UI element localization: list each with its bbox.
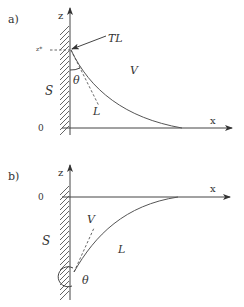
origin-label-a: 0 (38, 123, 44, 133)
hatch-stroke (60, 186, 69, 195)
hatch-stroke (60, 111, 69, 120)
hatch-stroke (60, 66, 69, 75)
hatch-stroke (60, 96, 69, 105)
hatch-stroke (60, 56, 69, 65)
hatch-stroke (60, 216, 69, 225)
origin-label-b: 0 (38, 192, 44, 202)
hatch-stroke (60, 236, 69, 245)
hatch-stroke (60, 41, 69, 50)
hatch-stroke (60, 241, 69, 250)
panel-b: b) z x 0 θ V L S (8, 165, 230, 300)
hatch-stroke (60, 281, 69, 290)
hatch-stroke (60, 256, 69, 265)
hatch-stroke (60, 231, 69, 240)
diagram: a) z x 0 z* TL θ V L S b) z (0, 0, 244, 307)
hatch-stroke (60, 201, 69, 210)
contact-angle-arc-a (70, 68, 80, 70)
hatch-stroke (60, 76, 69, 85)
hatch-stroke (60, 226, 69, 235)
hatch-stroke (60, 206, 69, 215)
hatch-stroke (60, 211, 69, 220)
x-axis-label-a: x (210, 115, 216, 126)
hatch-stroke (60, 26, 69, 35)
theta-label-a: θ (73, 74, 80, 87)
tl-arrow (72, 36, 106, 49)
z-axis-label-b: z (58, 167, 63, 178)
hatch-stroke (60, 86, 69, 95)
hatch-stroke (60, 286, 69, 295)
hatch-stroke (60, 61, 69, 70)
panel-a: a) z x 0 z* TL θ V L S (8, 8, 232, 135)
liquid-label-b: L (117, 243, 125, 256)
hatch-stroke (60, 51, 69, 60)
wall-hatch-a (60, 26, 69, 135)
hatch-stroke (60, 36, 69, 45)
hatch-stroke (60, 251, 69, 260)
hatch-stroke (60, 291, 69, 300)
solid-label-b: S (42, 234, 50, 248)
vapor-label-a: V (130, 64, 139, 77)
hatch-stroke (60, 121, 69, 130)
interface-curve-b (74, 197, 178, 272)
hatch-stroke (60, 31, 69, 40)
hatch-stroke (60, 71, 69, 80)
hatch-stroke (60, 81, 69, 90)
hatch-stroke (60, 106, 69, 115)
solid-label-a: S (45, 84, 53, 98)
hatch-stroke (60, 261, 69, 270)
hatch-stroke (60, 191, 69, 200)
panel-a-label: a) (8, 13, 19, 26)
hatch-stroke (60, 116, 69, 125)
hatch-stroke (60, 91, 69, 100)
hatch-stroke (60, 46, 69, 55)
tl-label: TL (108, 32, 123, 45)
vapor-label-b: V (87, 213, 96, 226)
interface-curve-a (71, 50, 182, 128)
hatch-stroke (60, 101, 69, 110)
tangent-dashed-b (74, 228, 94, 272)
theta-label-b: θ (82, 274, 89, 287)
hatch-stroke (60, 221, 69, 230)
x-axis-label-b: x (210, 183, 216, 194)
wall-hatch-b (60, 186, 69, 300)
hatch-stroke (60, 246, 69, 255)
panel-b-label: b) (8, 170, 19, 183)
hatch-stroke (60, 126, 69, 135)
zstar-label: z* (36, 45, 42, 52)
liquid-label-a: L (92, 105, 100, 118)
hatch-stroke (60, 271, 69, 280)
z-axis-label-a: z (58, 10, 63, 21)
